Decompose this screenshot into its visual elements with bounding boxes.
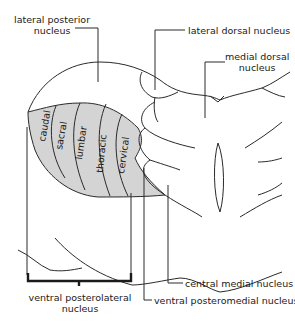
- label-ventral-posterolateral-nucleus: ventral posterolateral nucleus: [25, 292, 135, 314]
- lateral-dorsal-lobe: [140, 72, 178, 98]
- thalamus-diagram: caudal sacral lumbar thoracic cervical: [0, 0, 295, 323]
- label-lateral-posterior-nucleus: lateral posterior nucleus: [14, 14, 90, 36]
- diagram-drawing: caudal sacral lumbar thoracic cervical: [0, 0, 295, 323]
- label-lateral-dorsal-nucleus: lateral dorsal nucleus: [188, 25, 290, 36]
- midline-slit: [214, 143, 223, 212]
- label-central-medial-nucleus: central medial nucleus: [185, 278, 293, 289]
- label-medial-dorsal-nucleus: medial dorsal nucleus: [225, 51, 289, 73]
- label-ventral-posteromedial-nucleus: ventral posteromedial nucleus: [154, 295, 295, 306]
